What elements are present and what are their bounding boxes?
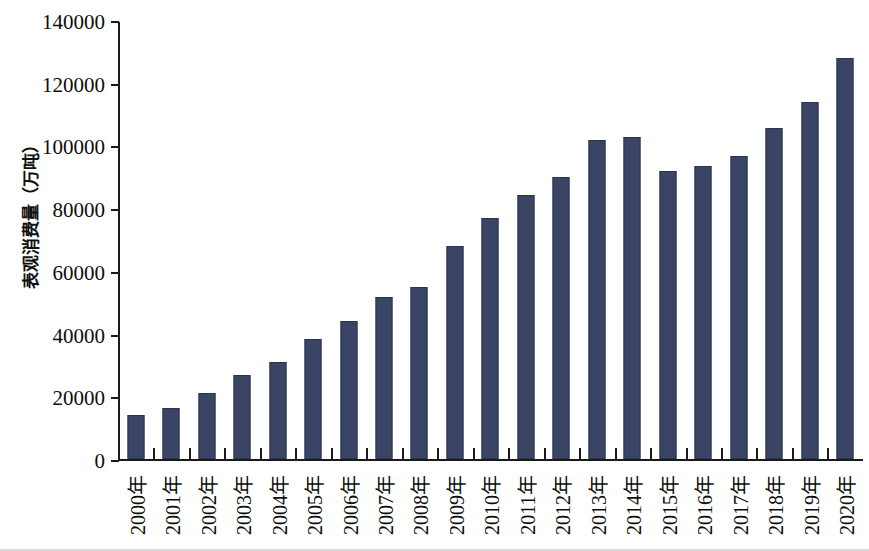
x-axis-label-slot: 2018年: [757, 463, 792, 551]
x-axis-label-slot: 2016年: [686, 463, 721, 551]
x-axis-tick-label: 2015年: [653, 475, 682, 535]
bar[interactable]: [624, 137, 641, 459]
bar-chart: 表观消费量（万吨） 020000400006000080000100000120…: [0, 0, 869, 551]
bar[interactable]: [517, 195, 534, 459]
x-axis-label-slot: 2009年: [437, 463, 472, 551]
plot-area: 020000400006000080000100000120000140000: [118, 22, 863, 461]
bar-slot: [757, 22, 792, 459]
bar[interactable]: [127, 415, 144, 459]
x-axis-label-slot: 2000年: [118, 463, 153, 551]
x-axis-label-slot: 2008年: [402, 463, 437, 551]
bar-slot: [189, 22, 224, 459]
x-axis-tick-label: 2001年: [157, 475, 186, 535]
y-axis-tick-label: 100000: [42, 135, 105, 160]
bar-slot: [686, 22, 721, 459]
y-axis-tick: [111, 460, 119, 462]
x-axis-tick-label: 2005年: [299, 475, 328, 535]
x-axis-line: [118, 459, 863, 461]
x-axis-tick-label: 2012年: [547, 475, 576, 535]
bar[interactable]: [163, 408, 180, 460]
x-axis-label-slot: 2003年: [224, 463, 259, 551]
x-axis-tick-label: 2017年: [724, 475, 753, 535]
x-axis-tick-label: 2002年: [192, 475, 221, 535]
bar-series: [118, 22, 863, 459]
bar-slot: [508, 22, 543, 459]
bar[interactable]: [305, 339, 322, 459]
x-axis-tick-label: 2006年: [334, 475, 363, 535]
y-axis-tick-label: 120000: [42, 72, 105, 97]
bar-slot: [118, 22, 153, 459]
y-axis-tick-label: 140000: [42, 10, 105, 35]
y-axis-tick-label: 60000: [53, 260, 106, 285]
bar-slot: [295, 22, 330, 459]
bar-slot: [721, 22, 756, 459]
y-axis-tick-label: 20000: [53, 386, 106, 411]
bar-slot: [366, 22, 401, 459]
x-axis-tick-label: 2009年: [440, 475, 469, 535]
bar-slot: [224, 22, 259, 459]
x-axis-tick-label: 2000年: [121, 475, 150, 535]
bar[interactable]: [198, 393, 215, 459]
bar[interactable]: [411, 287, 428, 459]
bar[interactable]: [340, 321, 357, 459]
bar-slot: [828, 22, 863, 459]
y-axis-tick-label: 80000: [53, 198, 106, 223]
x-axis-label-slot: 2007年: [366, 463, 401, 551]
x-axis-label-slot: 2010年: [473, 463, 508, 551]
bar-slot: [331, 22, 366, 459]
x-axis-label-slot: 2005年: [295, 463, 330, 551]
bar-slot: [615, 22, 650, 459]
y-axis-tick-label: 40000: [53, 323, 106, 348]
bar-slot: [260, 22, 295, 459]
x-axis-tick-label: 2019年: [795, 475, 824, 535]
x-axis-tick-label: 2007年: [370, 475, 399, 535]
x-axis-label-slot: 2019年: [792, 463, 827, 551]
bar-slot: [792, 22, 827, 459]
x-axis-label-slot: 2011年: [508, 463, 543, 551]
x-axis-labels: 2000年2001年2002年2003年2004年2005年2006年2007年…: [118, 463, 863, 551]
x-axis-label-slot: 2013年: [579, 463, 614, 551]
bar[interactable]: [482, 218, 499, 459]
bar-slot: [579, 22, 614, 459]
x-axis-tick-label: 2018年: [760, 475, 789, 535]
x-axis-tick-label: 2020年: [831, 475, 860, 535]
y-axis-tick-label: 0: [95, 449, 106, 474]
y-axis-title: 表观消费量（万吨）: [17, 98, 42, 328]
x-axis-label-slot: 2012年: [544, 463, 579, 551]
x-axis-label-slot: 2004年: [260, 463, 295, 551]
x-axis-tick-label: 2010年: [476, 475, 505, 535]
x-axis-label-slot: 2017年: [721, 463, 756, 551]
bar[interactable]: [588, 140, 605, 459]
bar-slot: [437, 22, 472, 459]
bar[interactable]: [269, 362, 286, 459]
bar[interactable]: [659, 171, 676, 459]
bar[interactable]: [446, 246, 463, 459]
x-axis-label-slot: 2014年: [615, 463, 650, 551]
x-axis-label-slot: 2006年: [331, 463, 366, 551]
x-axis-tick-label: 2013年: [582, 475, 611, 535]
bar[interactable]: [837, 58, 854, 459]
bar[interactable]: [730, 156, 747, 459]
bar-slot: [402, 22, 437, 459]
x-axis-tick-label: 2003年: [228, 475, 257, 535]
x-axis-tick-label: 2004年: [263, 475, 292, 535]
x-axis-tick-label: 2011年: [511, 475, 540, 534]
bar[interactable]: [695, 166, 712, 459]
x-axis-tick-label: 2008年: [405, 475, 434, 535]
x-axis-tick-label: 2014年: [618, 475, 647, 535]
bar[interactable]: [766, 128, 783, 459]
x-axis-label-slot: 2001年: [153, 463, 188, 551]
bar-slot: [153, 22, 188, 459]
bar[interactable]: [801, 102, 818, 459]
bar-slot: [544, 22, 579, 459]
bar[interactable]: [553, 177, 570, 459]
x-axis-label-slot: 2015年: [650, 463, 685, 551]
x-axis-label-slot: 2020年: [828, 463, 863, 551]
x-axis-tick-label: 2016年: [689, 475, 718, 535]
x-axis-label-slot: 2002年: [189, 463, 224, 551]
bar-slot: [650, 22, 685, 459]
bar-slot: [473, 22, 508, 459]
bar[interactable]: [376, 297, 393, 459]
bar[interactable]: [234, 375, 251, 459]
